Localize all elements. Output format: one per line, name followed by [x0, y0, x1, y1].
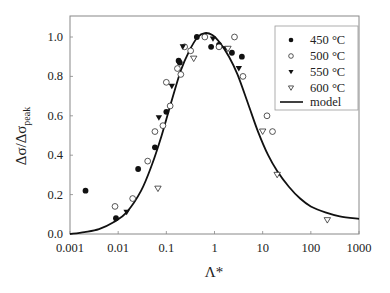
filled-circle-marker: [208, 44, 214, 50]
open-triangle-marker: [324, 218, 330, 223]
open-circle-marker: [289, 54, 294, 59]
x-tick-label: 1000: [347, 241, 372, 255]
x-tick-label: 10: [256, 241, 269, 255]
x-tick-label: 0.001: [56, 241, 84, 255]
chart: 0.0010.010.111010010000.00.20.40.60.81.0…: [0, 0, 390, 293]
y-axis-title-main: Δσ/Δσ: [13, 126, 29, 166]
open-circle-marker: [152, 129, 158, 135]
open-circle-marker: [240, 74, 246, 80]
filled-triangle-marker: [210, 36, 216, 41]
filled-triangle-marker: [156, 115, 162, 120]
x-tick-label: 100: [301, 241, 320, 255]
open-circle-marker: [216, 44, 222, 50]
open-circle-marker: [232, 34, 238, 40]
open-circle-marker: [270, 129, 276, 135]
legend-label-model: model: [310, 95, 342, 109]
filled-triangle-marker: [169, 84, 175, 89]
legend-label-600: 600 °C: [310, 81, 345, 95]
filled-circle-marker: [194, 34, 200, 40]
legend-label-450: 450 °C: [310, 33, 345, 47]
legend: 450 °C 500 °C 550 °C 600 °C model: [275, 26, 358, 110]
open-triangle-marker: [155, 186, 161, 191]
y-tick-label: 0.4: [47, 148, 63, 162]
open-circle-marker: [202, 34, 208, 40]
y-tick-label: 0.6: [47, 109, 63, 123]
y-tick-label: 0.0: [47, 227, 63, 241]
filled-circle-marker: [152, 144, 158, 150]
open-circle-marker: [145, 158, 151, 164]
open-circle-marker: [264, 113, 270, 119]
y-tick-label: 1.0: [47, 30, 63, 44]
open-triangle-marker: [259, 129, 265, 134]
open-circle-marker: [130, 196, 136, 202]
filled-circle-marker: [163, 109, 169, 115]
y-axis-title: Δσ/Δσpeak: [13, 107, 32, 166]
filled-circle-marker: [135, 166, 141, 172]
open-circle-marker: [178, 72, 184, 78]
filled-circle-marker: [113, 215, 119, 221]
filled-circle-marker: [239, 54, 245, 60]
open-circle-marker: [160, 123, 166, 129]
filled-circle-marker: [289, 38, 294, 43]
filled-circle-marker: [177, 60, 183, 66]
filled-circle-marker: [229, 50, 235, 56]
x-axis-title: Λ*: [205, 264, 223, 280]
open-circle-marker: [112, 204, 118, 210]
open-triangle-marker: [191, 56, 197, 61]
open-circle-marker: [175, 66, 181, 72]
x-tick-label: 0.01: [107, 241, 129, 255]
svg-text:Δσ/Δσpeak: Δσ/Δσpeak: [13, 107, 32, 166]
open-circle-marker: [167, 103, 173, 109]
y-axis-title-sub: peak: [21, 107, 32, 126]
legend-label-500: 500 °C: [310, 49, 345, 63]
x-tick-label: 0.1: [159, 241, 175, 255]
filled-circle-marker: [83, 188, 89, 194]
open-circle-marker: [163, 79, 169, 85]
open-circle-marker: [188, 48, 194, 54]
y-tick-label: 0.8: [47, 69, 63, 83]
y-tick-label: 0.2: [47, 188, 63, 202]
x-tick-label: 1: [211, 241, 217, 255]
legend-label-550: 550 °C: [310, 65, 345, 79]
